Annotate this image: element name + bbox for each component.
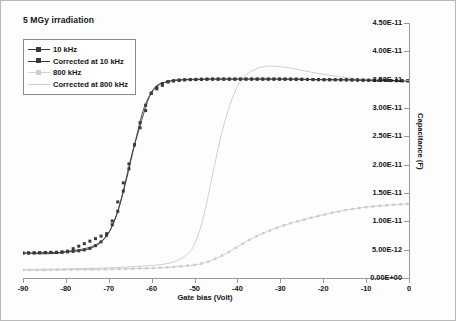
- x-tick: [23, 279, 24, 283]
- x-tick-label: -40: [222, 284, 252, 293]
- y-tick-label: 2.00E-11: [346, 160, 402, 169]
- y-tick-label: 4.50E-11: [346, 18, 402, 27]
- y-tick: [404, 51, 409, 52]
- y-tick-label: 0.00E+00: [346, 273, 402, 282]
- x-tick-label: -20: [308, 284, 338, 293]
- y-tick-label: 5.00E-12: [346, 245, 402, 254]
- x-tick: [323, 279, 324, 283]
- y-tick: [404, 221, 409, 222]
- x-tick: [195, 279, 196, 283]
- y-tick: [404, 165, 409, 166]
- x-tick: [66, 279, 67, 283]
- x-tick: [280, 279, 281, 283]
- x-tick-label: -10: [351, 284, 381, 293]
- x-tick-label: -60: [137, 284, 167, 293]
- x-tick-label: -70: [94, 284, 124, 293]
- x-tick-label: -80: [51, 284, 81, 293]
- chart-figure: 5 MGy irradiation 10 kHz Corrected at 10…: [0, 0, 456, 321]
- x-tick: [109, 279, 110, 283]
- y-tick: [404, 193, 409, 194]
- y-tick: [404, 23, 409, 24]
- x-tick: [366, 279, 367, 283]
- y-tick-label: 4.00E-11: [346, 46, 402, 55]
- y-tick-label: 1.50E-11: [346, 188, 402, 197]
- y-axis: [409, 23, 410, 278]
- y-tick-label: 3.50E-11: [346, 75, 402, 84]
- y-tick: [404, 108, 409, 109]
- x-tick: [152, 279, 153, 283]
- y-tick-label: 3.00E-11: [346, 103, 402, 112]
- y-tick-label: 2.50E-11: [346, 131, 402, 140]
- y-tick-label: 1.00E-11: [346, 216, 402, 225]
- x-tick-label: 0: [394, 284, 424, 293]
- x-tick-label: -30: [265, 284, 295, 293]
- x-tick-label: -50: [180, 284, 210, 293]
- x-tick-label: -90: [8, 284, 38, 293]
- y-tick: [404, 250, 409, 251]
- x-axis-label: Gate bias (Volt): [1, 293, 409, 302]
- y-tick: [404, 136, 409, 137]
- x-tick: [409, 279, 410, 283]
- y-tick: [404, 80, 409, 81]
- series-800-khz: [23, 203, 409, 272]
- plot-area: [23, 23, 409, 278]
- x-tick: [237, 279, 238, 283]
- y-axis-label: Capacitance (F): [416, 113, 425, 170]
